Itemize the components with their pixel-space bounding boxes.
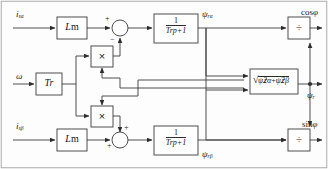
divide-icon-bottom: ÷	[288, 133, 310, 145]
block-diagram-figure: isα isβ ω Lm Lm Tr 1 Trp+1 1 Trp+1 × × ÷…	[0, 0, 328, 169]
input-label-omega: ω	[16, 72, 22, 81]
divide-icon-top: ÷	[288, 21, 310, 33]
signal-label-psi-r-beta: ψrβ	[202, 150, 213, 160]
block-label-tr: Tr	[36, 78, 62, 88]
block-label-transfer-top: 1 Trp+1	[154, 17, 198, 35]
sum-sign-bottom-left: +	[107, 142, 112, 150]
signal-label-psi-r-alpha: ψrα	[202, 10, 213, 20]
multiply-icon-top: ×	[91, 50, 113, 62]
output-label-cos-phi: cosφ	[301, 8, 318, 17]
sum-sign-bottom-top: +	[124, 124, 129, 132]
block-label-magnitude-sqrt: √ψ2rα+ψ2rβ	[253, 75, 289, 85]
block-label-transfer-bottom: 1 Trp+1	[154, 129, 198, 147]
multiply-icon-bottom: ×	[91, 110, 113, 122]
sum-sign-top-left: +	[105, 15, 110, 23]
sum-junction-top	[112, 20, 128, 36]
block-label-lm-bottom: Lm	[57, 134, 87, 144]
input-label-is-alpha: isα	[16, 10, 24, 20]
sum-junction-bottom	[112, 132, 128, 148]
block-label-lm-top: Lm	[57, 22, 87, 32]
output-label-psi-r: ψr	[307, 91, 315, 101]
input-label-is-beta: isβ	[16, 122, 23, 132]
sum-sign-top-bottom: −	[110, 36, 115, 44]
output-label-sin-phi: sinφ	[302, 120, 318, 129]
